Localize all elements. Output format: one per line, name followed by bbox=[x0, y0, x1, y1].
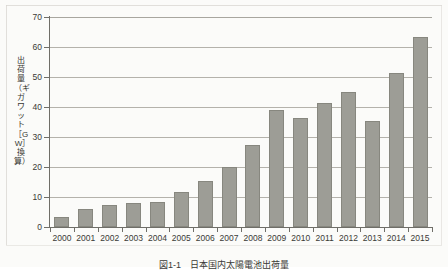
bar-2008 bbox=[245, 145, 260, 227]
gridline-50 bbox=[50, 77, 432, 78]
figure-caption: 図1-1 日本国内太陽電池出荷量 bbox=[0, 258, 448, 271]
x-tick-mark-end bbox=[432, 228, 433, 232]
bar-2003 bbox=[126, 203, 141, 227]
plot-area bbox=[50, 17, 432, 227]
x-tick-mark-2013 bbox=[360, 228, 361, 232]
y-tick-label-10: 10 bbox=[16, 193, 42, 202]
x-tick-mark-2008 bbox=[241, 228, 242, 232]
x-tick-mark-2001 bbox=[74, 228, 75, 232]
y-tick-label-50: 50 bbox=[16, 73, 42, 82]
x-tick-mark-2002 bbox=[98, 228, 99, 232]
bar-2015 bbox=[413, 37, 428, 227]
x-tick-mark-2012 bbox=[337, 228, 338, 232]
x-tick-mark-2003 bbox=[122, 228, 123, 232]
scan-frame-left-edge bbox=[6, 5, 7, 245]
x-tick-label-2015: 2015 bbox=[403, 234, 437, 243]
bar-2005 bbox=[174, 192, 189, 227]
y-tick-label-20: 20 bbox=[16, 163, 42, 172]
bar-2010 bbox=[293, 118, 308, 227]
scan-frame-top-edge bbox=[6, 5, 442, 6]
x-tick-mark-2006 bbox=[193, 228, 194, 232]
bar-2002 bbox=[102, 205, 117, 227]
y-axis-tick-label-group: 010203040506070 bbox=[12, 0, 42, 267]
bar-2012 bbox=[341, 92, 356, 227]
y-tick-label-30: 30 bbox=[16, 133, 42, 142]
bar-2007 bbox=[222, 167, 237, 227]
x-tick-mark-2010 bbox=[289, 228, 290, 232]
y-tick-label-70: 70 bbox=[16, 13, 42, 22]
x-tick-mark-2015 bbox=[408, 228, 409, 232]
x-tick-mark-2004 bbox=[146, 228, 147, 232]
x-tick-mark-2009 bbox=[265, 228, 266, 232]
bar-2013 bbox=[365, 121, 380, 228]
bar-2009 bbox=[269, 110, 284, 227]
x-tick-mark-2014 bbox=[384, 228, 385, 232]
x-tick-mark-2011 bbox=[313, 228, 314, 232]
x-tick-mark-2000 bbox=[50, 228, 51, 232]
bar-2000 bbox=[54, 217, 69, 228]
y-tick-label-0: 0 bbox=[16, 223, 42, 232]
bar-2011 bbox=[317, 103, 332, 228]
x-tick-mark-2007 bbox=[217, 228, 218, 232]
gridline-70 bbox=[50, 17, 432, 18]
y-tick-label-40: 40 bbox=[16, 103, 42, 112]
scan-frame-bottom-edge bbox=[6, 245, 442, 246]
scan-frame-right-edge bbox=[441, 5, 442, 245]
bar-2014 bbox=[389, 73, 404, 228]
bar-2004 bbox=[150, 202, 165, 227]
gridline-40 bbox=[50, 107, 432, 108]
bar-2006 bbox=[198, 181, 213, 227]
x-tick-mark-2005 bbox=[169, 228, 170, 232]
y-tick-label-60: 60 bbox=[16, 43, 42, 52]
bar-2001 bbox=[78, 209, 93, 227]
gridline-60 bbox=[50, 47, 432, 48]
